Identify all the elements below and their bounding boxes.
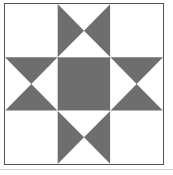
quilt-block-frame — [4, 3, 164, 165]
quilt-pattern-svg — [5, 4, 163, 164]
cell-center-square — [58, 57, 111, 110]
cell-top-left-corner — [5, 4, 58, 57]
baseline-rule — [0, 169, 173, 170]
quilt-block-canvas — [0, 0, 173, 175]
cell-top-right-corner — [110, 4, 163, 57]
cell-bottom-right-corner — [110, 111, 163, 164]
cell-bottom-left-corner — [5, 111, 58, 164]
